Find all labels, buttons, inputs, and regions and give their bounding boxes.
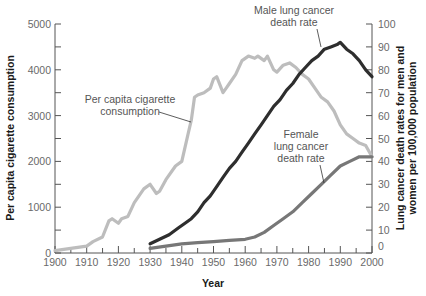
annotation-cigarette-line2: consumption <box>100 105 160 117</box>
annotation-female-line2: lung cancer <box>274 140 329 152</box>
x-tick-label: 1980 <box>297 256 321 268</box>
y-axis-right-title-line2: women per 100,000 population <box>406 62 418 216</box>
y-left-tick-label: 5000 <box>28 18 52 30</box>
annotation-female-leader <box>320 165 324 183</box>
annotation-cigarette: Per capita cigarette consumption <box>85 93 191 122</box>
y-right-tick-label: 50 <box>378 133 390 145</box>
annotation-male: Male lung cancer death rate <box>254 4 334 47</box>
x-axis-title: Year <box>202 277 224 289</box>
annotation-female-line3: death rate <box>277 152 324 164</box>
y-right-tick-label: 80 <box>378 64 390 76</box>
x-tick-label: 2000 <box>360 256 384 268</box>
y-right-tick-label: 20 <box>378 201 390 213</box>
x-tick-label: 1970 <box>265 256 289 268</box>
y-right-tick-label: 90 <box>378 41 390 53</box>
y-right-tick-label: 70 <box>378 87 390 99</box>
y-left-tick-label: 3000 <box>28 110 52 122</box>
y-axis-left-title: Per capita cigarette consumption <box>4 55 16 221</box>
x-tick-label: 1900 <box>43 256 67 268</box>
female-lung-cancer-death-rate-line <box>150 157 372 249</box>
y-right-tick-label: 40 <box>378 155 390 167</box>
y-right-tick-label: 0 <box>378 240 384 252</box>
x-tick-label: 1990 <box>329 256 353 268</box>
y-left-tick-label: 4000 <box>28 64 52 76</box>
y-right-tick-label: 60 <box>378 110 390 122</box>
y-right-tick-label: 10 <box>378 224 390 236</box>
annotation-cigarette-leader <box>159 112 191 122</box>
x-tick-label: 1910 <box>75 256 99 268</box>
male-lung-cancer-death-rate-line <box>150 42 372 244</box>
annotation-male-line1: Male lung cancer <box>254 4 334 16</box>
y-left-tick-label: 2000 <box>28 155 52 167</box>
annotation-female-line1: Female <box>283 128 318 140</box>
x-tick-label: 1940 <box>170 256 194 268</box>
y-right-tick-label: 100 <box>378 18 396 30</box>
annotation-cigarette-line1: Per capita cigarette <box>85 93 176 105</box>
annotation-female: Female lung cancer death rate <box>274 128 329 183</box>
annotation-male-leader <box>317 29 321 47</box>
x-tick-label: 1920 <box>107 256 131 268</box>
y-right-tick-label: 30 <box>378 178 390 190</box>
chart: 0100020003000400050000102030405060708090… <box>0 0 426 296</box>
annotation-male-line2: death rate <box>270 16 317 28</box>
x-tick-label: 1960 <box>234 256 258 268</box>
axes: 0100020003000400050000102030405060708090… <box>28 18 396 268</box>
x-tick-label: 1950 <box>202 256 226 268</box>
y-axis-right-title-line1: Lung cancer death rates for men and <box>394 46 406 230</box>
y-left-tick-label: 1000 <box>28 201 52 213</box>
x-tick-label: 1930 <box>138 256 162 268</box>
